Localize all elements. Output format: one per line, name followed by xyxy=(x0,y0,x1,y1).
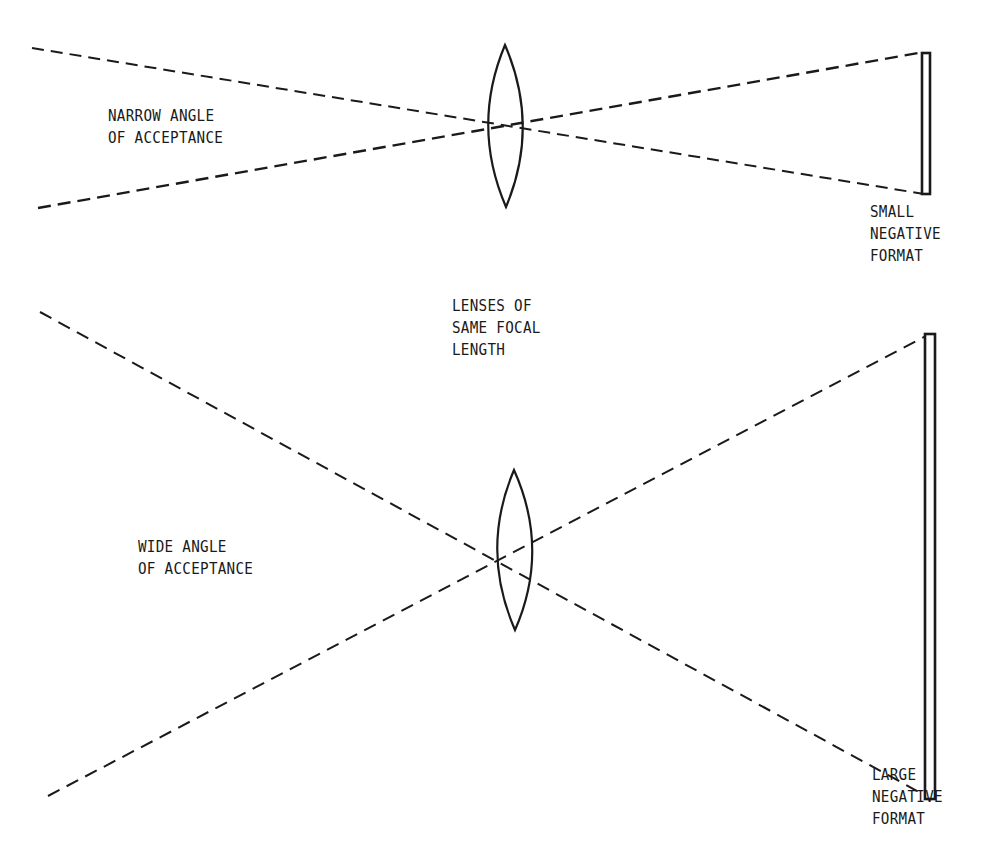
same-focal-label-line-2: SAME FOCAL xyxy=(452,317,541,339)
same-focal-label-line-1: LENSES OF xyxy=(452,295,541,317)
large-negative-label-line-2: NEGATIVE xyxy=(872,786,943,808)
wide-angle-label: WIDE ANGLE OF ACCEPTANCE xyxy=(138,536,253,580)
large-negative-label-line-1: LARGE xyxy=(872,764,943,786)
same-focal-length-label: LENSES OF SAME FOCAL LENGTH xyxy=(452,295,541,361)
large-negative xyxy=(925,334,935,799)
narrow-angle-label-line-1: NARROW ANGLE xyxy=(108,105,223,127)
small-negative-label-line-3: FORMAT xyxy=(870,245,941,267)
narrow-angle-label-line-2: OF ACCEPTANCE xyxy=(108,127,223,149)
small-negative-label-line-1: SMALL xyxy=(870,201,941,223)
wide-angle-label-line-2: OF ACCEPTANCE xyxy=(138,558,253,580)
small-negative-label-line-2: NEGATIVE xyxy=(870,223,941,245)
wide-angle-label-line-1: WIDE ANGLE xyxy=(138,536,253,558)
same-focal-label-line-3: LENGTH xyxy=(452,339,541,361)
large-negative-format-label: LARGE NEGATIVE FORMAT xyxy=(872,764,943,830)
small-negative-format-label: SMALL NEGATIVE FORMAT xyxy=(870,201,941,267)
small-negative xyxy=(922,53,930,194)
narrow-angle-label: NARROW ANGLE OF ACCEPTANCE xyxy=(108,105,223,149)
large-negative-label-line-3: FORMAT xyxy=(872,808,943,830)
lens-bottom xyxy=(497,470,532,630)
